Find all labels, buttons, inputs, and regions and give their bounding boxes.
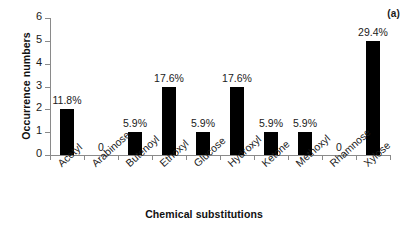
bar-value-label: 5.9% bbox=[293, 117, 317, 129]
bar-value-label: 17.6% bbox=[154, 72, 184, 84]
y-axis-tick-label: 6 bbox=[16, 10, 42, 22]
bar-value-label: 17.6% bbox=[222, 72, 252, 84]
y-axis-tick-mark bbox=[45, 109, 50, 110]
x-axis-tick-mark bbox=[356, 155, 357, 160]
x-axis-tick-mark bbox=[186, 155, 187, 160]
y-axis-line bbox=[50, 18, 51, 155]
y-axis-tick-mark bbox=[45, 41, 50, 42]
y-axis-tick-label: 2 bbox=[16, 101, 42, 113]
y-axis-tick-label: 4 bbox=[16, 56, 42, 68]
x-axis-tick-mark bbox=[254, 155, 255, 160]
y-axis-tick-label: 5 bbox=[16, 33, 42, 45]
x-axis-tick-mark bbox=[288, 155, 289, 160]
x-axis-tick-mark bbox=[118, 155, 119, 160]
y-axis-tick-mark bbox=[45, 87, 50, 88]
bar-value-label: 11.8% bbox=[53, 94, 82, 106]
bar-value-label: 5.9% bbox=[191, 117, 215, 129]
x-axis-tick-mark bbox=[220, 155, 221, 160]
x-axis-tick-mark bbox=[50, 155, 51, 160]
bar-value-label: 29.4% bbox=[358, 26, 388, 38]
x-axis-tick-mark bbox=[84, 155, 85, 160]
x-axis-tick-mark bbox=[322, 155, 323, 160]
x-axis-tick-mark bbox=[390, 155, 391, 160]
y-axis-tick-mark bbox=[45, 64, 50, 65]
y-axis-tick-mark bbox=[45, 18, 50, 19]
y-axis-tick-label: 0 bbox=[16, 147, 42, 159]
y-axis-tick-mark bbox=[45, 132, 50, 133]
x-axis-title: Chemical substitutions bbox=[0, 208, 408, 220]
bar-value-label: 5.9% bbox=[123, 117, 147, 129]
bar-value-label: 5.9% bbox=[259, 117, 283, 129]
chart-figure: (a) Occurrence numbers 0123456 11.8%05.9… bbox=[0, 0, 408, 234]
x-axis-tick-mark bbox=[152, 155, 153, 160]
y-axis-tick-label: 3 bbox=[16, 79, 42, 91]
y-axis-tick-label: 1 bbox=[16, 124, 42, 136]
